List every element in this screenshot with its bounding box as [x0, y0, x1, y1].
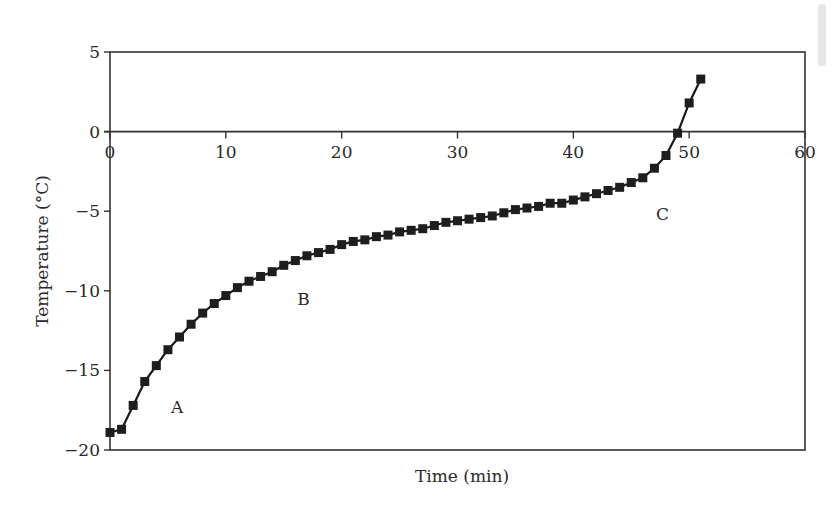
data-point-marker — [221, 291, 230, 300]
data-point-marker — [129, 401, 138, 410]
data-point-marker — [233, 283, 242, 292]
data-point-marker — [152, 361, 161, 370]
data-point-marker — [580, 192, 589, 201]
temperature-series-markers — [106, 75, 706, 437]
data-point-marker — [256, 272, 265, 281]
x-tick-label: 30 — [447, 142, 469, 162]
data-point-marker — [360, 235, 369, 244]
data-point-marker — [627, 178, 636, 187]
data-point-marker — [476, 213, 485, 222]
phase-annotations: ABC — [170, 204, 669, 417]
plot-frame — [110, 52, 805, 450]
x-tick-label: 50 — [678, 142, 700, 162]
data-point-marker — [696, 75, 705, 84]
x-tick-label: 0 — [105, 142, 116, 162]
data-point-marker — [187, 320, 196, 329]
data-point-marker — [499, 208, 508, 217]
data-point-marker — [430, 221, 439, 230]
data-point-marker — [441, 218, 450, 227]
x-tick-label: 40 — [563, 142, 585, 162]
data-point-marker — [569, 196, 578, 205]
data-point-marker — [604, 186, 613, 195]
data-point-marker — [291, 256, 300, 265]
data-point-marker — [546, 199, 555, 208]
data-point-marker — [198, 309, 207, 318]
y-axis-title: Temperature (°C) — [32, 175, 52, 327]
data-point-marker — [302, 251, 311, 260]
data-point-marker — [337, 240, 346, 249]
data-point-marker — [314, 248, 323, 257]
y-tick-label: −15 — [64, 360, 100, 380]
annotation-b: B — [297, 289, 310, 309]
chart: 0102030405060 50−5−10−15−20 ABC Time (mi… — [0, 0, 840, 510]
y-tick-label: −20 — [64, 440, 100, 460]
data-point-marker — [326, 245, 335, 254]
data-point-marker — [615, 183, 624, 192]
data-point-marker — [418, 224, 427, 233]
data-point-marker — [117, 425, 126, 434]
x-axis-title: Time (min) — [415, 466, 509, 486]
data-point-marker — [465, 215, 474, 224]
data-point-marker — [106, 428, 115, 437]
x-tick-label: 60 — [794, 142, 816, 162]
data-point-marker — [279, 261, 288, 270]
y-tick-label: −10 — [64, 281, 100, 301]
data-point-marker — [372, 232, 381, 241]
data-point-marker — [638, 173, 647, 182]
data-point-marker — [557, 199, 566, 208]
data-point-marker — [523, 204, 532, 213]
data-point-marker — [407, 226, 416, 235]
y-tick-label: 5 — [89, 42, 100, 62]
data-point-marker — [453, 216, 462, 225]
data-point-marker — [673, 129, 682, 138]
x-axis-ticks: 0102030405060 — [105, 132, 816, 162]
plot-area: 0102030405060 50−5−10−15−20 ABC — [64, 42, 816, 460]
x-tick-label: 10 — [215, 142, 237, 162]
data-point-marker — [685, 98, 694, 107]
y-axis-ticks: 50−5−10−15−20 — [64, 42, 110, 460]
data-point-marker — [534, 202, 543, 211]
data-point-marker — [349, 237, 358, 246]
x-tick-label: 20 — [331, 142, 353, 162]
data-point-marker — [245, 277, 254, 286]
data-point-marker — [384, 231, 393, 240]
data-point-marker — [140, 377, 149, 386]
scan-artifact — [818, 4, 826, 66]
data-point-marker — [395, 227, 404, 236]
data-point-marker — [488, 211, 497, 220]
data-point-marker — [662, 151, 671, 160]
data-point-marker — [175, 332, 184, 341]
data-point-marker — [210, 299, 219, 308]
y-tick-label: 0 — [89, 122, 100, 142]
data-point-marker — [592, 189, 601, 198]
annotation-a: A — [170, 397, 184, 417]
data-point-marker — [511, 205, 520, 214]
y-tick-label: −5 — [75, 201, 100, 221]
annotation-c: C — [656, 204, 669, 224]
data-point-marker — [268, 267, 277, 276]
data-point-marker — [163, 345, 172, 354]
data-point-marker — [650, 164, 659, 173]
